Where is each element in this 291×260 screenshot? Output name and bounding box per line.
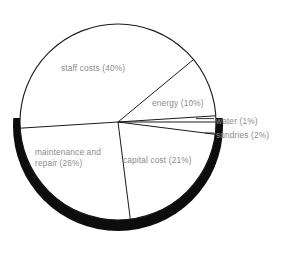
pie-label-staff-costs: staff costs (40%) (61, 63, 125, 74)
pie-label-energy: energy (10%) (152, 98, 204, 109)
pie-label-water: water (1%) (216, 116, 258, 127)
pie-chart-figure: staff costs (40%) energy (10%) water (1%… (0, 0, 291, 260)
pie-label-sundries: sundries (2%) (216, 130, 269, 141)
pie-label-maintenance-and-repair: maintenance and repair (26%) (35, 147, 109, 169)
pie-shadow-arc (13, 21, 223, 231)
slice-boundary-energy-staff (118, 60, 194, 123)
pie-label-capital-cost: capital cost (21%) (123, 155, 192, 166)
